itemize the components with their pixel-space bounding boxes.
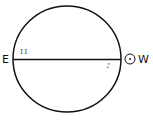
west-label: W (138, 54, 149, 65)
mark-label: ♪ (106, 63, 110, 70)
sun-symbol-icon (125, 54, 135, 64)
diagram-canvas (0, 0, 153, 124)
roman-two-label: II (20, 48, 28, 56)
east-label: E (2, 54, 9, 65)
